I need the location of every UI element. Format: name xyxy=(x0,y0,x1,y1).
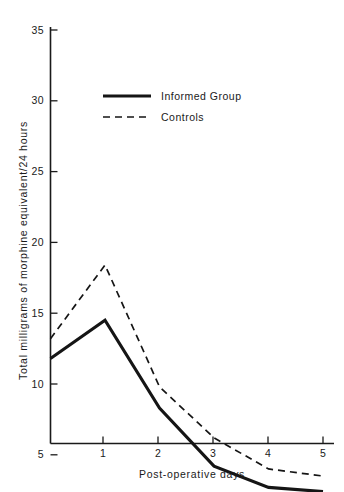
y-axis-tick-labels: 35 30 25 20 15 10 5 xyxy=(32,24,44,461)
y-tick-label-20: 20 xyxy=(32,236,44,248)
y-tick-label-15: 15 xyxy=(32,307,44,319)
x-tick-label-4: 4 xyxy=(265,447,271,459)
y-tick-label-25: 25 xyxy=(32,165,44,177)
series-line-controls xyxy=(51,265,324,476)
legend-label-informed-group: Informed Group xyxy=(161,90,242,102)
x-tick-label-2: 2 xyxy=(155,447,161,459)
y-axis-ticks xyxy=(51,30,58,455)
y-axis-title: Total milligrams of morphine equivalent/… xyxy=(17,121,29,380)
x-axis-title: Post-operative days xyxy=(139,468,245,480)
x-axis-tick-labels: 1 2 3 4 5 xyxy=(100,447,326,459)
line-chart: 35 30 25 20 15 10 5 1 2 3 4 5 xyxy=(0,0,344,492)
y-tick-label-10: 10 xyxy=(32,378,44,390)
chart-figure: 35 30 25 20 15 10 5 1 2 3 4 5 xyxy=(0,0,344,492)
x-tick-label-1: 1 xyxy=(100,447,106,459)
series-line-informed-group xyxy=(51,320,324,491)
x-tick-label-5: 5 xyxy=(320,447,326,459)
data-series xyxy=(51,265,324,492)
y-tick-label-35: 35 xyxy=(32,24,44,36)
x-tick-label-3: 3 xyxy=(210,447,216,459)
legend-label-controls: Controls xyxy=(161,111,204,123)
x-axis-ticks xyxy=(103,437,323,444)
y-tick-label-5: 5 xyxy=(38,448,44,460)
y-tick-label-30: 30 xyxy=(32,94,44,106)
chart-legend: Informed Group Controls xyxy=(103,90,242,123)
